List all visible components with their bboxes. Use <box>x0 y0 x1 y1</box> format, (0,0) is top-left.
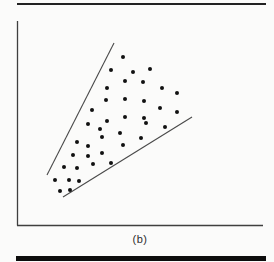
data-point <box>105 86 109 90</box>
data-point <box>163 125 167 129</box>
data-point <box>58 189 62 193</box>
data-point <box>75 140 79 144</box>
data-point <box>53 178 57 182</box>
data-point <box>98 127 102 131</box>
data-point <box>123 97 127 101</box>
data-point <box>67 178 71 182</box>
data-point <box>109 68 113 72</box>
data-point <box>141 80 145 84</box>
data-point <box>118 131 122 135</box>
lower-boundary-line <box>63 117 192 197</box>
data-point <box>121 143 125 147</box>
data-point <box>148 67 152 71</box>
data-point <box>100 135 104 139</box>
data-point <box>158 106 162 110</box>
data-point <box>104 98 108 102</box>
data-point <box>71 153 75 157</box>
data-point <box>86 144 90 148</box>
figure-caption: (b) <box>0 233 274 246</box>
data-point <box>62 165 66 169</box>
data-point <box>90 108 94 112</box>
data-point <box>160 86 164 90</box>
data-point <box>131 70 135 74</box>
data-point <box>86 122 90 126</box>
data-point <box>77 179 81 183</box>
data-point <box>91 162 95 166</box>
upper-boundary-line <box>47 43 114 175</box>
data-point <box>68 188 72 192</box>
data-point <box>139 136 143 140</box>
data-point <box>175 91 179 95</box>
data-point <box>123 115 127 119</box>
data-point <box>121 55 125 59</box>
data-point <box>142 99 146 103</box>
data-point <box>123 79 127 83</box>
data-point <box>75 166 79 170</box>
scatter-plot <box>0 0 274 262</box>
data-point <box>175 110 179 114</box>
data-point <box>100 151 104 155</box>
figure-panel: (b) <box>0 0 274 262</box>
data-point <box>109 161 113 165</box>
data-point <box>86 154 90 158</box>
data-point <box>142 116 146 120</box>
data-point <box>105 119 109 123</box>
data-point <box>144 121 148 125</box>
